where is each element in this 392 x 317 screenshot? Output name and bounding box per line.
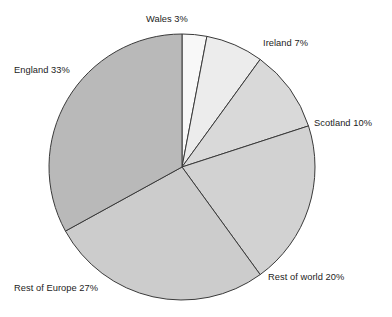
pie-label-rest-of-europe: Rest of Europe 27% (14, 283, 98, 294)
pie-label-wales: Wales 3% (146, 14, 188, 25)
pie-chart-svg (0, 0, 392, 317)
pie-slice-group (49, 34, 315, 300)
pie-label-ireland: Ireland 7% (263, 38, 308, 49)
pie-label-england: England 33% (14, 65, 70, 76)
pie-label-scotland: Scotland 10% (314, 118, 372, 129)
pie-chart: Wales 3% Ireland 7% Scotland 10% Rest of… (0, 0, 392, 317)
pie-label-rest-of-world: Rest of world 20% (268, 272, 344, 283)
